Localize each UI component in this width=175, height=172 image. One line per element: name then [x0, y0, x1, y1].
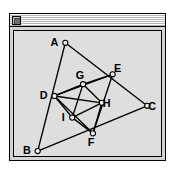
vertex-label-H: H [103, 97, 111, 109]
edge-GE[interactable] [83, 74, 113, 84]
vertex-label-F: F [88, 136, 95, 148]
vertex-label-D: D [40, 89, 48, 101]
vertex-I[interactable] [70, 115, 75, 120]
edge-HF[interactable] [93, 103, 102, 134]
vertex-F[interactable] [90, 131, 95, 136]
edge-DG[interactable] [54, 84, 83, 96]
vertex-A[interactable] [63, 40, 68, 45]
desktop-backdrop: ABCDEFGHI [0, 0, 175, 172]
application-window: ABCDEFGHI [9, 13, 166, 161]
vertex-label-C: C [148, 100, 156, 112]
vertex-label-I: I [62, 111, 65, 123]
drawing-canvas-frame[interactable]: ABCDEFGHI [13, 30, 162, 157]
vertex-B[interactable] [35, 149, 40, 154]
edge-IF[interactable] [72, 118, 93, 134]
vertex-label-A: A [51, 36, 59, 48]
window-title-bar[interactable] [10, 14, 165, 27]
geometry-diagram[interactable]: ABCDEFGHI [14, 31, 161, 156]
vertex-label-E: E [114, 62, 121, 74]
vertex-label-G: G [76, 69, 84, 81]
close-box-inner [14, 18, 20, 24]
vertex-label-B: B [23, 144, 31, 156]
vertex-G[interactable] [80, 82, 85, 87]
edge-DH[interactable] [54, 96, 101, 103]
vertex-D[interactable] [52, 93, 57, 98]
close-box-icon[interactable] [12, 16, 21, 25]
diagram-labels: ABCDEFGHI [23, 36, 156, 156]
